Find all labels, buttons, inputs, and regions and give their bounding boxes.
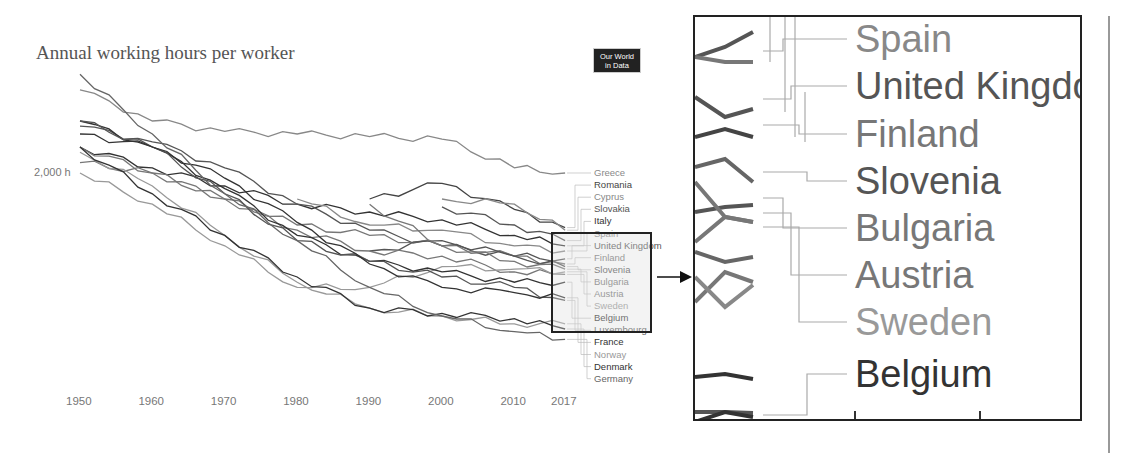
zoomed-series-line: [695, 129, 753, 137]
legend-item-france[interactable]: France: [594, 336, 624, 348]
zoom-legend-item-austria[interactable]: Austria: [855, 253, 973, 297]
zoom-legend-item-bulgaria[interactable]: Bulgaria: [855, 206, 994, 250]
x-tick-label: 1950: [66, 395, 92, 407]
series-line-greece[interactable]: [80, 90, 565, 174]
zoomed-series-line: [695, 159, 753, 182]
zoomed-series-line: [695, 97, 753, 117]
vertical-divider: [1108, 16, 1110, 453]
series-line-belgium[interactable]: [80, 121, 565, 286]
x-tick-label: 1960: [138, 395, 164, 407]
zoom-connector: [763, 172, 847, 181]
legend-item-italy[interactable]: Italy: [594, 215, 611, 227]
zoom-legend-item-sweden[interactable]: Sweden: [855, 300, 992, 344]
zoom-legend-item-united-kingdom[interactable]: United Kingdom: [855, 64, 1082, 108]
series-line-sweden[interactable]: [80, 173, 565, 290]
legend-connector: [567, 197, 591, 230]
x-tick-label: 1970: [211, 395, 237, 407]
zoom-legend-item-belgium[interactable]: Belgium: [855, 352, 992, 396]
series-line-luxembourg[interactable]: [80, 121, 565, 300]
series-line-germany[interactable]: [80, 74, 565, 340]
zoomed-series-line: [695, 205, 753, 212]
legend-connector: [567, 339, 591, 378]
legend-item-greece[interactable]: Greece: [594, 167, 625, 179]
zoom-legend-item-slovenia[interactable]: Slovenia: [855, 159, 1001, 203]
legend-item-denmark[interactable]: Denmark: [594, 361, 633, 373]
zoomed-series-line: [695, 57, 753, 62]
zoom-panel: SpainUnited KingdomFinlandSloveniaBulgar…: [693, 15, 1082, 421]
legend-item-slovakia[interactable]: Slovakia: [594, 203, 630, 215]
legend-connector: [567, 329, 591, 367]
legend-item-norway[interactable]: Norway: [594, 349, 626, 361]
series-line-slovenia[interactable]: [370, 241, 565, 267]
legend-item-germany[interactable]: Germany: [594, 373, 633, 385]
zoomed-series-line: [695, 374, 753, 379]
legend-item-romania[interactable]: Romania: [594, 179, 632, 191]
arrow-head-icon: [680, 271, 692, 283]
x-tick-label: 2000: [428, 395, 454, 407]
zoom-legend-item-finland[interactable]: Finland: [855, 112, 980, 156]
zoom-region-indicator: [551, 232, 652, 333]
series-line-italy[interactable]: [80, 147, 565, 246]
zoomed-series-line: [695, 32, 753, 57]
x-tick-label: 2010: [500, 395, 526, 407]
legend-item-cyprus[interactable]: Cyprus: [594, 191, 624, 203]
zoom-connector: [763, 374, 847, 415]
x-tick-label: 1990: [356, 395, 382, 407]
series-line-denmark[interactable]: [80, 147, 565, 329]
zoomed-series-line: [695, 217, 753, 242]
x-tick-label: 1980: [283, 395, 309, 407]
y-axis-label: 2,000 h: [34, 166, 71, 178]
x-tick-label: 2017: [551, 395, 577, 407]
zoomed-series-line: [695, 252, 753, 262]
zoom-connector: [763, 39, 847, 51]
zoom-legend-item-spain[interactable]: Spain: [855, 17, 952, 61]
zoom-connector: [763, 213, 847, 275]
